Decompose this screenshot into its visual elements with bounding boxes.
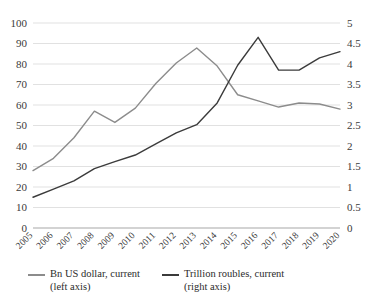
right-axis-tick-label: 5 (347, 17, 353, 29)
x-axis-tick-label: 2010 (116, 230, 137, 251)
series-line (33, 48, 340, 171)
right-axis-tick-label: 1.5 (347, 160, 361, 172)
left-axis-tick-label: 30 (16, 160, 28, 172)
right-axis-tick-label: 0.5 (347, 201, 361, 213)
x-axis-tick-label: 2020 (321, 230, 342, 251)
x-axis-tick-label: 2006 (34, 230, 55, 251)
right-axis-tick-label: 3 (347, 99, 353, 111)
left-axis-tick-label: 40 (16, 140, 28, 152)
x-axis-tick-labels: 2005200620072008200920102011201220132014… (14, 230, 342, 251)
x-axis-tick-label: 2017 (260, 230, 281, 251)
series-lines (33, 37, 340, 197)
x-axis-tick-label: 2012 (157, 230, 178, 251)
legend-label-line1: Bn US dollar, current (50, 268, 140, 279)
chart-legend: Bn US dollar, current (left axis) Trilli… (0, 268, 375, 308)
line-chart-plot: 0102030405060708090100 00.511.522.533.54… (0, 0, 375, 308)
left-axis-tick-label: 20 (16, 181, 28, 193)
x-axis-tick-label: 2008 (75, 230, 96, 251)
x-axis-tick-label: 2015 (219, 230, 240, 251)
x-axis-tick-label: 2019 (300, 230, 321, 251)
right-axis-tick-label: 2.5 (347, 119, 361, 131)
x-axis-tick-label: 2013 (178, 230, 199, 251)
left-axis-tick-label: 100 (11, 17, 28, 29)
legend-item-bn-us-dollar: Bn US dollar, current (left axis) (28, 268, 140, 308)
right-axis-tick-labels: 00.511.522.533.544.55 (347, 17, 361, 234)
right-axis-tick-label: 4 (347, 58, 353, 70)
x-axis-tick-label: 2005 (14, 230, 35, 251)
legend-label-bn-us-dollar: Bn US dollar, current (left axis) (50, 268, 140, 293)
left-axis-tick-label: 90 (16, 37, 28, 49)
grid-lines (33, 23, 340, 228)
legend-line-grey-icon (28, 274, 45, 276)
left-axis-tick-label: 50 (16, 119, 28, 131)
left-axis-tick-label: 70 (16, 78, 28, 90)
x-axis-tick-label: 2009 (96, 230, 117, 251)
left-axis-tick-labels: 0102030405060708090100 (11, 17, 28, 234)
legend-item-trillion-roubles: Trillion roubles, current (right axis) (162, 268, 284, 308)
left-axis-tick-label: 10 (16, 201, 28, 213)
x-axis-tick-label: 2011 (137, 230, 157, 250)
legend-label-line1: Trillion roubles, current (184, 268, 284, 279)
legend-label-trillion-roubles: Trillion roubles, current (right axis) (184, 268, 284, 293)
right-axis-tick-label: 2 (347, 140, 353, 152)
left-axis-tick-label: 60 (16, 99, 28, 111)
legend-label-line2: (right axis) (184, 281, 284, 294)
left-axis-tick-label: 80 (16, 58, 28, 70)
x-axis-tick-label: 2007 (55, 230, 76, 251)
legend-label-line2: (left axis) (50, 281, 140, 294)
right-axis-tick-label: 4.5 (347, 37, 361, 49)
right-axis-tick-label: 1 (347, 181, 353, 193)
chart-container: 0102030405060708090100 00.511.522.533.54… (0, 0, 375, 308)
right-axis-tick-label: 0 (347, 222, 353, 234)
x-axis-tick-label: 2018 (280, 230, 301, 251)
series-line (33, 37, 340, 197)
x-axis-tick-label: 2016 (239, 230, 260, 251)
right-axis-tick-label: 3.5 (347, 78, 361, 90)
x-axis-tick-label: 2014 (198, 230, 219, 251)
legend-line-dark-icon (162, 274, 179, 276)
